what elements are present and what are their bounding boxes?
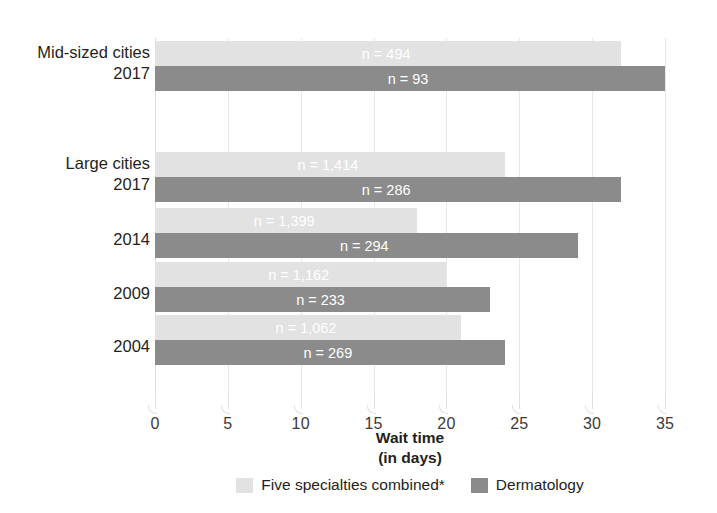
bar-group-mid-sized-cities: n = 494 n = 93 (155, 38, 665, 93)
bar-row-large-2017: n = 1,414 n = 286 (155, 149, 665, 201)
tick-mark-0 (155, 393, 156, 415)
bar-five-specialties-large-2014[interactable]: n = 1,399 (155, 208, 417, 233)
legend-swatch-icon-dark (471, 478, 488, 493)
bar-dermatology-large-2004[interactable]: n = 269 (155, 340, 505, 365)
bar-value-label: n = 93 (388, 71, 429, 87)
legend-item-dermatology[interactable]: Dermatology (471, 476, 584, 494)
bar-five-specialties-large-2017[interactable]: n = 1,414 (155, 152, 505, 177)
bar-value-label: n = 1,162 (268, 267, 329, 283)
legend: Five specialties combined* Dermatology (155, 476, 665, 494)
x-axis-title-line-2: (in days) (155, 448, 665, 468)
bar-value-label: n = 233 (296, 292, 345, 308)
bar-value-label: n = 494 (362, 46, 411, 62)
large-cities-label: Large cities (66, 154, 150, 172)
bar-row-large-2009: n = 1,162 n = 233 (155, 259, 665, 311)
year-label-2014: 2014 (113, 229, 150, 250)
bar-dermatology-mid-2017[interactable]: n = 93 (155, 66, 665, 91)
tick-mark-30 (592, 393, 593, 415)
bar-five-specialties-large-2009[interactable]: n = 1,162 (155, 262, 446, 287)
bar-value-label: n = 269 (303, 345, 352, 361)
tick-mark-10 (301, 393, 302, 415)
bar-row-mid-2017: n = 494 n = 93 (155, 38, 665, 90)
bar-dermatology-large-2009[interactable]: n = 233 (155, 287, 490, 312)
gridline-35 (665, 38, 666, 393)
mid-sized-cities-label: Mid-sized cities (37, 43, 150, 61)
legend-swatch-icon-light (236, 478, 253, 493)
bar-dermatology-large-2017[interactable]: n = 286 (155, 177, 621, 202)
bar-value-label: n = 1,399 (254, 213, 315, 229)
bar-row-large-2014: n = 1,399 n = 294 (155, 205, 665, 257)
bar-value-label: n = 1,062 (276, 320, 337, 336)
tick-mark-20 (446, 393, 447, 415)
wait-time-bar-chart: Mid-sized cities 2017 Large cities 2017 … (0, 0, 717, 513)
plot-area: 0 5 10 15 20 25 30 35 n = 494 n = 93 n =… (155, 38, 665, 393)
category-label-group: Large cities 2017 (66, 153, 150, 195)
legend-label-five-specialties: Five specialties combined* (261, 476, 445, 494)
x-axis-title-line-1: Wait time (155, 428, 665, 448)
tick-mark-15 (374, 393, 375, 415)
bar-value-label: n = 286 (362, 182, 411, 198)
year-label-2009: 2009 (113, 283, 150, 304)
bar-value-label: n = 294 (340, 238, 389, 254)
tick-mark-35 (665, 393, 666, 415)
legend-item-five-specialties[interactable]: Five specialties combined* (236, 476, 445, 494)
tick-mark-25 (519, 393, 520, 415)
bar-five-specialties-large-2004[interactable]: n = 1,062 (155, 315, 461, 340)
bar-row-large-2004: n = 1,062 n = 269 (155, 312, 665, 364)
legend-label-dermatology: Dermatology (496, 476, 584, 494)
bar-value-label: n = 1,414 (297, 157, 358, 173)
x-axis-title: Wait time (in days) (155, 428, 665, 468)
bar-group-large-cities: n = 1,414 n = 286 n = 1,399 n = 294 n = … (155, 149, 665, 393)
category-label-group: Mid-sized cities 2017 (37, 42, 150, 84)
mid-sized-cities-year: 2017 (113, 64, 150, 82)
large-cities-year-2017: 2017 (113, 175, 150, 193)
bar-dermatology-large-2014[interactable]: n = 294 (155, 233, 578, 258)
tick-mark-5 (228, 393, 229, 415)
year-label-2004: 2004 (113, 336, 150, 357)
bar-five-specialties-mid-2017[interactable]: n = 494 (155, 41, 621, 66)
